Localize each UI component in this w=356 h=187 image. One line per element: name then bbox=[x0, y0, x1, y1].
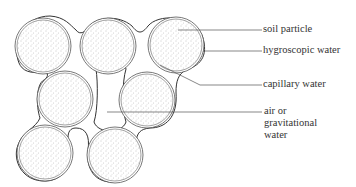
label-hygroscopic-water: hygroscopic water bbox=[263, 44, 340, 56]
label-capillary-water: capillary water bbox=[263, 78, 326, 90]
label-air-or: air or bbox=[264, 105, 286, 117]
label-soil-particle: soil particle bbox=[263, 23, 312, 35]
label-water: water bbox=[264, 129, 287, 141]
label-gravitational: gravitational bbox=[264, 117, 317, 129]
